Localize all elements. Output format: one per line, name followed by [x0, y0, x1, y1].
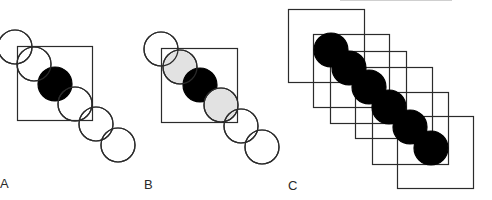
- panel-a-circle-filled: [38, 67, 72, 101]
- panel-c-label: C: [288, 179, 297, 192]
- panel-c-diagram: [289, 10, 474, 189]
- panel-a-circle-outline: [79, 107, 113, 141]
- panel-c-circle-filled: [414, 131, 448, 165]
- panel-b-circle-outline: [224, 109, 258, 143]
- panel-a-circle-outline: [58, 87, 92, 121]
- panel-a-circle-outline: [17, 47, 51, 81]
- panel-a-circle-outline: [101, 128, 135, 162]
- panel-b-label: B: [144, 178, 153, 191]
- figure-canvas: [0, 0, 492, 200]
- panel-b-diagram: [144, 32, 279, 164]
- panel-a-diagram: [0, 30, 135, 162]
- panel-b-circle-outline: [245, 130, 279, 164]
- panel-a-label: A: [0, 177, 9, 190]
